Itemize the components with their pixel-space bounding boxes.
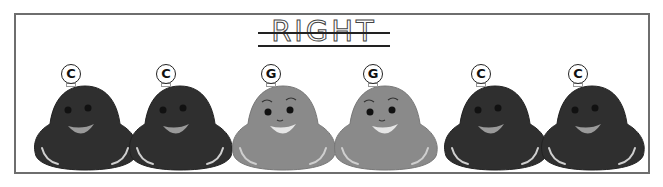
character-c: C	[537, 60, 647, 172]
blob-character-icon	[228, 60, 338, 172]
blob-character-icon	[125, 60, 235, 172]
letter-badge: C	[61, 64, 81, 84]
blob-character-icon	[440, 60, 550, 172]
letter-badge: C	[471, 64, 491, 84]
letter-badge: G	[363, 64, 383, 84]
character-c: C	[30, 60, 140, 172]
letter-badge: C	[568, 64, 588, 84]
blob-character-icon	[330, 60, 440, 172]
blob-character-icon	[30, 60, 140, 172]
character-c: C	[125, 60, 235, 172]
character-c: C	[440, 60, 550, 172]
character-g: G	[228, 60, 338, 172]
letter-badge: C	[156, 64, 176, 84]
letter-badge: G	[261, 64, 281, 84]
blob-character-icon	[537, 60, 647, 172]
character-g: G	[330, 60, 440, 172]
character-row: C C G	[0, 0, 663, 187]
